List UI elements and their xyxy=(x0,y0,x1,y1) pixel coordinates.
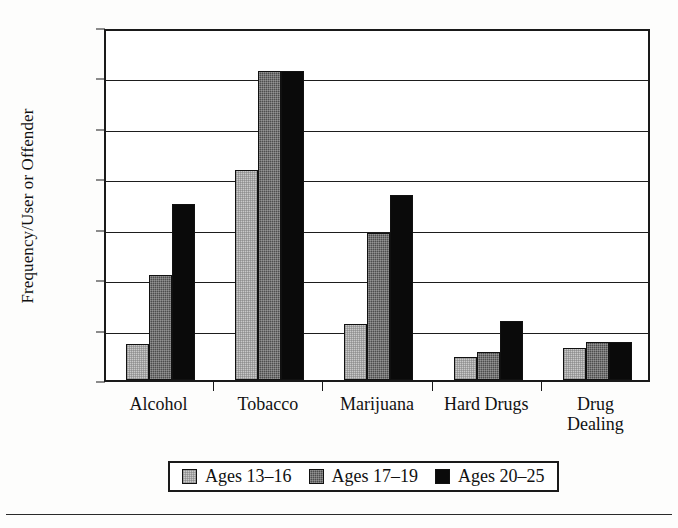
legend-label: Ages 13–16 xyxy=(205,467,292,485)
legend-swatch-icon xyxy=(435,469,450,484)
bar xyxy=(149,275,172,380)
y-axis-title: Frequency/User or Offender xyxy=(18,46,38,366)
bar-group xyxy=(215,31,324,380)
bar xyxy=(367,233,390,380)
bar-group xyxy=(434,31,543,380)
bar xyxy=(563,348,586,380)
bar xyxy=(281,71,304,380)
legend-label: Ages 20–25 xyxy=(458,467,545,485)
bar-group xyxy=(106,31,215,380)
legend-item: Ages 13–16 xyxy=(182,467,292,485)
bar xyxy=(609,342,632,380)
footer-divider-rule xyxy=(6,514,672,515)
legend-swatch-icon xyxy=(182,469,197,484)
chart-legend: Ages 13–16Ages 17–19Ages 20–25 xyxy=(168,461,559,492)
bar xyxy=(258,71,281,380)
x-axis-tick-mark xyxy=(213,382,214,391)
x-axis-tick-mark xyxy=(432,382,433,391)
legend-item: Ages 20–25 xyxy=(435,467,545,485)
bar xyxy=(235,170,258,380)
bar xyxy=(500,321,523,381)
bar xyxy=(390,195,413,380)
legend-label: Ages 17–19 xyxy=(332,467,419,485)
plot-area xyxy=(104,29,650,382)
bar xyxy=(172,204,195,381)
bar-group xyxy=(543,31,652,380)
legend-item: Ages 17–19 xyxy=(309,467,419,485)
bar xyxy=(126,344,149,380)
legend-swatch-icon xyxy=(309,469,324,484)
bar xyxy=(344,324,367,380)
x-axis-category-label: DrugDealing xyxy=(520,394,670,434)
bar xyxy=(477,352,500,380)
bar-group xyxy=(324,31,433,380)
bar xyxy=(454,357,477,380)
x-axis-tick-mark xyxy=(541,382,542,391)
bar-chart-figure: Frequency/User or Offender 0501001502002… xyxy=(0,0,678,528)
x-axis-tick-mark xyxy=(322,382,323,391)
bar xyxy=(586,342,609,380)
